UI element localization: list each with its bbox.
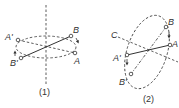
figure-2: C B A A' B' (2) [111, 10, 178, 104]
label-c: C [111, 30, 118, 40]
point-a [73, 51, 77, 55]
point-a-prime [125, 53, 129, 57]
label-b-prime: B' [119, 77, 127, 87]
point-b-prime [129, 72, 133, 76]
label-b: B [73, 25, 79, 35]
label-a: A [171, 39, 178, 49]
point-b-prime [19, 56, 23, 60]
label-a-prime: A' [112, 53, 121, 63]
solid-line-a-prime-a [127, 45, 170, 55]
caption-1: (1) [39, 87, 50, 97]
label-a: A [73, 56, 80, 66]
label-b-prime: B' [10, 58, 18, 68]
label-a-prime: A' [4, 32, 13, 42]
rotation-diagrams: A' B B' A (1) C B A A' B' (2) [0, 0, 179, 108]
arrow-icon [76, 38, 78, 42]
point-a-prime [16, 38, 20, 42]
label-b: B [168, 17, 174, 27]
caption-2: (2) [143, 94, 154, 104]
figure-1: A' B B' A (1) [4, 5, 80, 97]
